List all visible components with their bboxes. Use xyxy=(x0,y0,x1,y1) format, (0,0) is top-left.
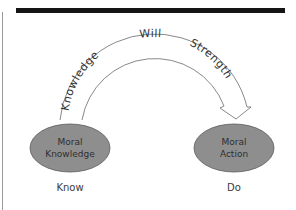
arc-label-path: Knowledge xyxy=(59,48,102,112)
node-ellipse xyxy=(194,124,274,172)
node-caption: Know xyxy=(56,182,83,193)
node-label-line2: Action xyxy=(220,149,248,159)
arc-label-will: Will xyxy=(139,27,162,41)
node-ellipse xyxy=(30,124,110,172)
node-caption: Do xyxy=(227,182,241,193)
node-label-line2: Knowledge xyxy=(45,149,95,159)
svg-text:Strength: Strength xyxy=(188,36,235,81)
node-label-line1: Moral xyxy=(58,137,83,147)
arc-label-strength: Strength xyxy=(188,36,235,81)
node-moral-action: Moral Action Do xyxy=(194,124,274,193)
node-label-line1: Moral xyxy=(222,137,247,147)
arc-label-knowledge: Knowledge xyxy=(59,48,102,112)
moral-arc-diagram: Knowledge Will Strength Moral Knowledge … xyxy=(0,0,296,210)
svg-text:Will: Will xyxy=(139,27,162,41)
node-moral-knowledge: Moral Knowledge Know xyxy=(30,124,110,193)
